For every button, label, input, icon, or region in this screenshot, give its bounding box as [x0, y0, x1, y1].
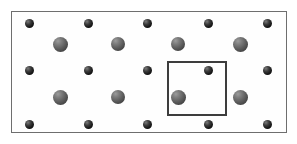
small-dark-atom: [84, 66, 93, 75]
small-dark-atom: [263, 66, 272, 75]
large-gray-atom: [233, 90, 248, 105]
small-dark-atom: [84, 120, 93, 129]
large-gray-atom: [53, 90, 68, 105]
small-dark-atom: [25, 120, 34, 129]
small-dark-atom: [263, 19, 272, 28]
small-dark-atom: [204, 120, 213, 129]
small-dark-atom: [143, 66, 152, 75]
small-dark-atom: [25, 19, 34, 28]
large-gray-atom: [111, 90, 125, 104]
small-dark-atom: [204, 19, 213, 28]
unit-cell-square: [167, 61, 227, 116]
large-gray-atom: [233, 37, 248, 52]
large-gray-atom: [53, 37, 68, 52]
small-dark-atom: [143, 120, 152, 129]
small-dark-atom: [263, 120, 272, 129]
small-dark-atom: [143, 19, 152, 28]
large-gray-atom: [111, 37, 125, 51]
small-dark-atom: [25, 66, 34, 75]
small-dark-atom: [84, 19, 93, 28]
lattice-diagram-canvas: [0, 0, 297, 144]
large-gray-atom: [171, 37, 185, 51]
